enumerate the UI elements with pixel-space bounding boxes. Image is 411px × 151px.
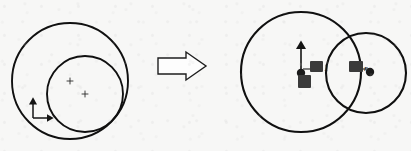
smudge-block-bottom — [298, 75, 311, 88]
center-mark-lower — [82, 91, 89, 98]
diagram-svg — [0, 0, 411, 151]
smudge-block-left — [310, 61, 323, 72]
figure-canvas: 1 r — [0, 0, 411, 151]
left-panel-group — [12, 23, 128, 139]
center-mark-upper — [67, 78, 74, 85]
radius-label-right: r — [364, 64, 368, 73]
implies-arrow — [158, 52, 206, 80]
radius-label-left: 1 — [324, 64, 329, 73]
smudge-block-right — [349, 61, 363, 72]
